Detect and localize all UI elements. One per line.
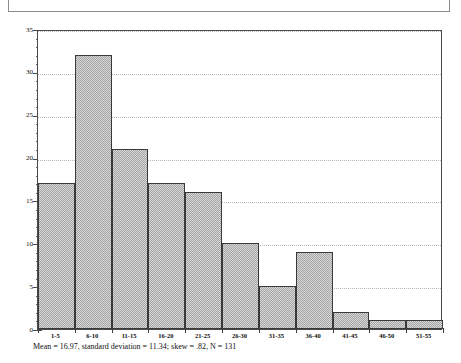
- histogram-bar: [259, 286, 296, 329]
- histogram-bar: [369, 320, 406, 329]
- x-tick-label-51-55: 51-55: [405, 332, 442, 340]
- histogram-bars: [38, 31, 441, 329]
- histogram-bar: [112, 149, 149, 329]
- x-tick-label-46-50: 46-50: [368, 332, 405, 340]
- x-tick-label-11-15: 11-15: [111, 332, 148, 340]
- y-axis-labels: 05101520253035: [0, 30, 33, 330]
- plot-area: [38, 31, 441, 329]
- plot-frame: [37, 30, 442, 330]
- y-tick-label-10: 10: [7, 241, 33, 248]
- figure-top-frame: [8, 0, 450, 12]
- histogram-figure: 05101520253035 1-56-1011-1516-2021-2526-…: [0, 18, 461, 363]
- histogram-bar: [333, 312, 370, 329]
- histogram-bar: [38, 183, 75, 329]
- histogram-bar: [185, 192, 222, 329]
- figure-caption: Mean = 16.97, standard deviation = 11.34…: [33, 342, 236, 352]
- histogram-bar: [296, 252, 333, 329]
- y-tick-label-25: 25: [7, 112, 33, 119]
- x-tick-label-41-45: 41-45: [332, 332, 369, 340]
- x-tick-mark-end: [443, 328, 444, 333]
- y-tick-label-30: 30: [7, 69, 33, 76]
- x-tick-label-31-35: 31-35: [258, 332, 295, 340]
- histogram-bar: [222, 243, 259, 329]
- x-tick-label-6-10: 6-10: [74, 332, 111, 340]
- x-tick-label-21-25: 21-25: [184, 332, 221, 340]
- x-tick-label-1-5: 1-5: [37, 332, 74, 340]
- y-tick-label-35: 35: [7, 27, 33, 34]
- y-tick-label-15: 15: [7, 198, 33, 205]
- x-tick-label-16-20: 16-20: [147, 332, 184, 340]
- y-tick-label-0: 0: [7, 327, 33, 334]
- histogram-bar: [148, 183, 185, 329]
- histogram-bar: [75, 55, 112, 329]
- y-tick-label-5: 5: [7, 284, 33, 291]
- y-tick-label-20: 20: [7, 155, 33, 162]
- histogram-bar: [406, 320, 443, 329]
- x-tick-label-26-30: 26-30: [221, 332, 258, 340]
- x-tick-label-36-40: 36-40: [295, 332, 332, 340]
